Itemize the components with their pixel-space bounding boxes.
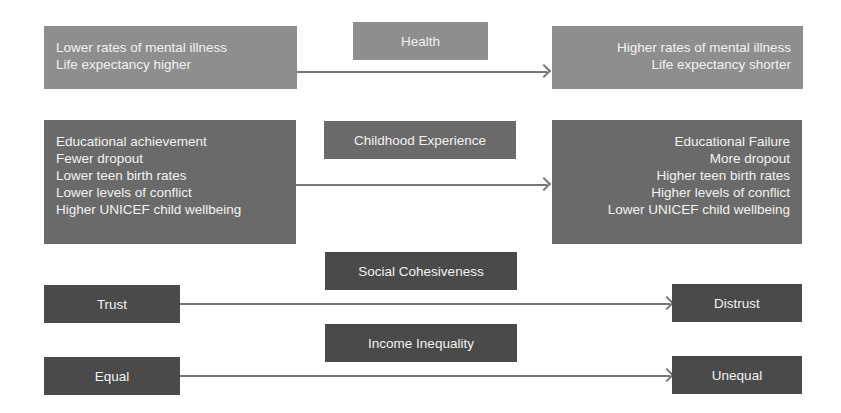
distrust-text: Distrust [714, 295, 760, 312]
childhood-right-box: Educational Failure More dropout Higher … [552, 120, 802, 244]
unequal-text: Unequal [712, 367, 762, 384]
childhood-category-label: Childhood Experience [324, 121, 516, 159]
equal-box: Equal [44, 357, 180, 395]
health-right-item: Higher rates of mental illness [564, 39, 791, 56]
unequal-box: Unequal [672, 356, 802, 394]
distrust-box: Distrust [672, 284, 802, 322]
category-text: Health [401, 33, 440, 50]
cohesion-category-label: Social Cohesiveness [325, 252, 517, 290]
trust-text: Trust [97, 296, 127, 313]
childhood-left-item: Higher UNICEF child wellbeing [56, 201, 284, 218]
childhood-arrow [296, 184, 547, 186]
health-category-label: Health [353, 22, 488, 60]
inequality-arrow [180, 375, 670, 377]
health-left-item: Lower rates of mental illness [56, 39, 285, 56]
inequality-category-label: Income Inequality [325, 324, 517, 362]
health-right-item: Life expectancy shorter [564, 56, 791, 73]
health-right-box: Higher rates of mental illness Life expe… [552, 26, 803, 89]
childhood-right-item: Lower UNICEF child wellbeing [564, 201, 790, 218]
equal-text: Equal [95, 368, 130, 385]
childhood-left-item: Educational achievement [56, 133, 284, 150]
childhood-left-item: Lower levels of conflict [56, 184, 284, 201]
category-text: Social Cohesiveness [358, 263, 483, 280]
childhood-right-item: Higher levels of conflict [564, 184, 790, 201]
cohesion-arrow [180, 303, 670, 305]
health-arrow [297, 71, 547, 73]
trust-box: Trust [44, 285, 180, 323]
childhood-right-item: More dropout [564, 150, 790, 167]
childhood-left-item: Lower teen birth rates [56, 167, 284, 184]
childhood-left-item: Fewer dropout [56, 150, 284, 167]
childhood-right-item: Educational Failure [564, 133, 790, 150]
category-text: Income Inequality [368, 335, 474, 352]
category-text: Childhood Experience [354, 132, 486, 149]
childhood-left-box: Educational achievement Fewer dropout Lo… [44, 120, 296, 244]
health-left-box: Lower rates of mental illness Life expec… [44, 26, 297, 89]
childhood-right-item: Higher teen birth rates [564, 167, 790, 184]
health-left-item: Life expectancy higher [56, 56, 285, 73]
